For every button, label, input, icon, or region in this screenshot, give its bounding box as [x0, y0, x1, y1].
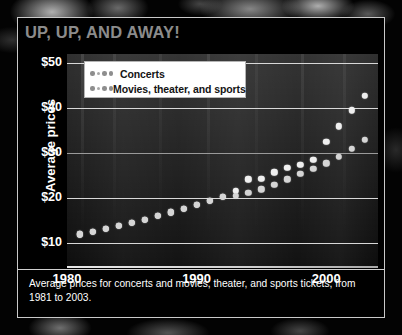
- data-point: [245, 176, 251, 182]
- data-point: [362, 92, 368, 98]
- gridline-30: [67, 153, 378, 154]
- chart-title: UP, UP, AND AWAY!: [25, 23, 180, 42]
- data-point: [180, 205, 186, 211]
- data-point: [271, 169, 277, 175]
- data-point: [323, 160, 329, 166]
- data-point: [271, 182, 277, 188]
- data-point: [336, 123, 342, 129]
- data-point: [103, 226, 109, 232]
- chart-panel: UP, UP, AND AWAY! Average prices $10$20$…: [17, 17, 385, 318]
- data-point: [206, 198, 212, 204]
- data-point: [142, 216, 148, 222]
- data-point: [258, 186, 264, 192]
- caption-divider: [18, 269, 385, 270]
- y-tick-label: $40: [18, 100, 62, 114]
- data-point: [362, 136, 368, 142]
- chart-figure: UP, UP, AND AWAY! Average prices $10$20$…: [0, 0, 402, 335]
- data-point: [349, 145, 355, 151]
- data-point: [129, 219, 135, 225]
- data-point: [310, 165, 316, 171]
- chart-legend: Concerts Movies, theater, and sports: [84, 61, 246, 98]
- data-point: [284, 176, 290, 182]
- data-point: [245, 190, 251, 196]
- gridline-10: [67, 243, 378, 244]
- data-point: [90, 228, 96, 234]
- data-point: [193, 202, 199, 208]
- data-point: [323, 139, 329, 145]
- x-axis-line: [67, 266, 378, 268]
- gridline-40: [67, 108, 378, 109]
- data-point: [116, 223, 122, 229]
- data-point: [154, 213, 160, 219]
- data-point: [77, 231, 83, 237]
- data-point: [349, 107, 355, 113]
- data-point: [284, 164, 290, 170]
- legend-item-movies: Movies, theater, and sports: [90, 81, 240, 96]
- legend-marker-concerts-icon: [90, 71, 120, 76]
- y-tick-label: $10: [18, 235, 62, 249]
- data-point: [310, 157, 316, 163]
- y-tick-label: $50: [18, 55, 62, 69]
- legend-label-concerts: Concerts: [120, 68, 165, 80]
- y-tick-label: $30: [18, 145, 62, 159]
- chart-caption: Average prices for concerts and movies, …: [29, 277, 379, 304]
- legend-label-movies: Movies, theater, and sports: [113, 83, 246, 95]
- legend-marker-movies-icon: [90, 86, 113, 91]
- data-point: [258, 175, 264, 181]
- data-point: [336, 154, 342, 160]
- y-tick-label: $20: [18, 190, 62, 204]
- data-point: [167, 209, 173, 215]
- legend-item-concerts: Concerts: [90, 66, 240, 81]
- data-point: [297, 161, 303, 167]
- data-point: [297, 171, 303, 177]
